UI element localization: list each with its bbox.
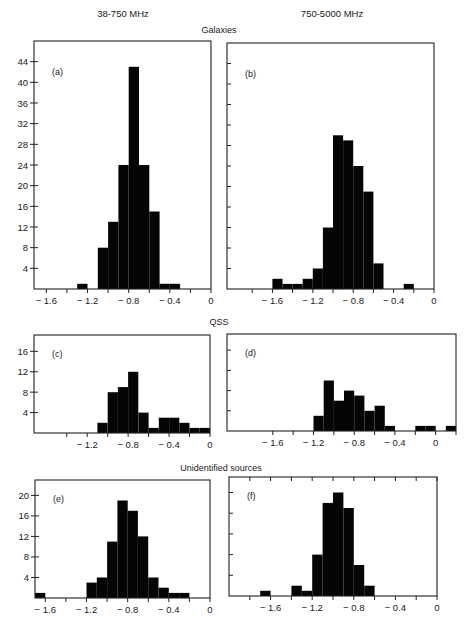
x-tick-label: − 1.6 bbox=[260, 602, 281, 613]
histogram-bar bbox=[334, 401, 344, 431]
histogram-bar bbox=[343, 508, 353, 596]
histogram-bar bbox=[344, 391, 354, 431]
x-tick-label: 0 bbox=[431, 295, 436, 306]
histogram-bar bbox=[97, 423, 107, 433]
histogram-bar bbox=[283, 284, 293, 289]
y-tick-label: 16 bbox=[17, 346, 28, 357]
histogram-bar bbox=[415, 426, 425, 431]
histogram-bar bbox=[138, 536, 148, 598]
y-tick-label: 4 bbox=[23, 407, 28, 418]
histogram-bar bbox=[87, 583, 97, 598]
x-tick-label: 0 bbox=[434, 602, 439, 613]
x-tick-label: − 1.2 bbox=[302, 295, 323, 306]
x-tick-label: 0 bbox=[207, 439, 212, 450]
histogram-bar bbox=[272, 279, 282, 289]
histogram-bar bbox=[159, 588, 169, 598]
y-tick-label: 8 bbox=[23, 387, 28, 398]
histogram-bar bbox=[364, 411, 374, 431]
histogram-bar bbox=[343, 140, 353, 289]
histogram-bar bbox=[149, 212, 159, 290]
histogram-bar bbox=[200, 428, 210, 433]
x-tick-label: − 1.2 bbox=[76, 604, 97, 615]
histogram-bar bbox=[303, 279, 313, 289]
histogram-bar bbox=[118, 165, 128, 289]
histogram-bar bbox=[324, 381, 334, 432]
histogram-bar bbox=[323, 503, 333, 596]
y-tick-label: 4 bbox=[23, 263, 28, 274]
histogram-bar bbox=[77, 284, 87, 289]
histogram-bar bbox=[138, 413, 148, 433]
y-tick-label: 44 bbox=[17, 56, 28, 67]
panel-label: (f) bbox=[247, 491, 256, 501]
histogram-bar bbox=[364, 586, 374, 596]
y-tick-label: 12 bbox=[17, 366, 28, 377]
histogram-bar bbox=[179, 593, 189, 598]
histogram-bar bbox=[97, 578, 107, 599]
x-tick-label: − 0.4 bbox=[383, 295, 404, 306]
panel-a-histogram: − 1.6− 1.2− 0.8− 0.404812162024283236404… bbox=[17, 41, 213, 306]
y-tick-label: 16 bbox=[18, 510, 29, 521]
histogram-bar bbox=[291, 586, 301, 596]
histogram-bar bbox=[260, 591, 270, 596]
histogram-bar bbox=[129, 67, 139, 289]
x-tick-label: 0 bbox=[433, 437, 438, 448]
histogram-bar bbox=[375, 406, 385, 431]
x-tick-label: − 0.4 bbox=[158, 439, 179, 450]
histogram-bar bbox=[385, 426, 395, 431]
y-tick-label: 36 bbox=[17, 98, 28, 109]
histogram-bar bbox=[293, 284, 303, 289]
y-tick-label: 28 bbox=[17, 139, 28, 150]
x-tick-label: − 1.2 bbox=[303, 437, 324, 448]
histogram-bar bbox=[179, 423, 189, 433]
histogram-bar bbox=[313, 269, 323, 290]
x-tick-label: 0 bbox=[208, 295, 213, 306]
x-tick-label: − 0.4 bbox=[384, 437, 405, 448]
histogram-bar bbox=[160, 284, 170, 289]
histogram-bar bbox=[353, 166, 363, 289]
histogram-bar bbox=[302, 591, 312, 596]
histogram-bar bbox=[314, 416, 324, 431]
y-tick-label: 8 bbox=[23, 242, 28, 253]
histogram-bar bbox=[190, 428, 200, 433]
histogram-bar bbox=[98, 248, 108, 289]
x-tick-label: − 1.6 bbox=[35, 604, 56, 615]
y-tick-label: 12 bbox=[18, 531, 29, 542]
x-tick-label: − 1.6 bbox=[36, 295, 57, 306]
panel-label: (e) bbox=[53, 494, 64, 504]
y-tick-label: 4 bbox=[24, 572, 29, 583]
histogram-bar bbox=[159, 418, 169, 433]
histogram-bar bbox=[139, 165, 149, 289]
panel-label: (a) bbox=[52, 67, 63, 77]
y-tick-label: 16 bbox=[17, 201, 28, 212]
x-tick-label: − 0.4 bbox=[385, 602, 406, 613]
x-tick-label: − 1.6 bbox=[262, 437, 283, 448]
x-tick-label: − 0.4 bbox=[158, 604, 179, 615]
y-tick-label: 20 bbox=[18, 490, 29, 501]
histogram-bar bbox=[108, 222, 118, 289]
x-tick-label: − 1.2 bbox=[77, 439, 98, 450]
histogram-bar bbox=[169, 593, 179, 598]
x-tick-label: − 1.6 bbox=[262, 295, 283, 306]
x-tick-label: − 0.8 bbox=[343, 295, 364, 306]
histogram-figure: − 1.6− 1.2− 0.8− 0.404812162024283236404… bbox=[0, 0, 469, 624]
histogram-bar bbox=[128, 372, 138, 433]
panel-f-histogram: − 1.6− 1.2− 0.8− 0.40(f) bbox=[229, 477, 440, 613]
histogram-bar bbox=[354, 396, 364, 431]
histogram-bar bbox=[323, 228, 333, 290]
panel-b-histogram: − 1.6− 1.2− 0.8− 0.40(b) bbox=[227, 43, 437, 306]
x-tick-label: − 0.4 bbox=[159, 295, 180, 306]
histogram-bar bbox=[363, 192, 373, 289]
x-tick-label: − 0.8 bbox=[117, 439, 138, 450]
histogram-bar bbox=[148, 578, 158, 599]
histogram-bar bbox=[118, 387, 128, 433]
y-tick-label: 12 bbox=[17, 222, 28, 233]
panel-label: (b) bbox=[245, 69, 256, 79]
histogram-bar bbox=[170, 284, 180, 289]
histogram-bar bbox=[426, 426, 436, 431]
histogram-bar bbox=[35, 593, 45, 598]
histogram-bar bbox=[107, 542, 117, 598]
x-tick-label: − 0.8 bbox=[118, 295, 139, 306]
histogram-bar bbox=[354, 565, 364, 596]
histogram-bar bbox=[373, 263, 383, 289]
x-tick-label: − 0.8 bbox=[343, 602, 364, 613]
